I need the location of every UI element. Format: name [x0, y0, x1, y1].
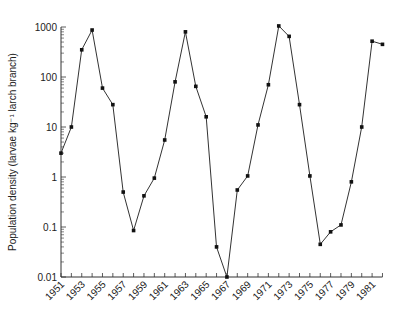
x-tick-label: 1957	[105, 278, 129, 302]
data-point-marker	[267, 83, 271, 87]
data-point-marker	[80, 48, 84, 52]
data-point-marker	[246, 174, 250, 178]
data-point-marker	[256, 123, 260, 127]
data-point-marker	[318, 243, 322, 247]
y-tick-label: 100	[40, 72, 57, 83]
data-point-marker	[329, 230, 333, 234]
data-point-marker	[163, 138, 167, 142]
data-point-marker	[235, 188, 239, 192]
data-point-marker	[204, 115, 208, 119]
x-axis: 1951195319551957195919611963196519671969…	[43, 273, 383, 302]
x-tick-label: 1977	[313, 278, 337, 302]
series-line	[61, 26, 383, 277]
data-point-marker	[381, 43, 385, 47]
data-point-marker	[184, 30, 188, 34]
y-tick-label: 1	[51, 172, 57, 183]
data-point-marker	[225, 275, 229, 279]
data-point-marker	[298, 103, 302, 107]
data-point-marker	[370, 39, 374, 43]
data-point-marker	[90, 28, 94, 32]
data-point-marker	[339, 223, 343, 227]
x-tick-label: 1967	[209, 278, 233, 302]
data-point-marker	[173, 80, 177, 84]
x-tick-label: 1965	[188, 278, 212, 302]
plot-area	[59, 24, 384, 279]
x-tick-label: 1979	[333, 278, 357, 302]
x-tick-label: 1963	[167, 278, 191, 302]
x-tick-label: 1975	[292, 278, 316, 302]
x-tick-label: 1981	[354, 278, 378, 302]
data-point-marker	[308, 174, 312, 178]
data-point-marker	[121, 190, 125, 194]
data-point-marker	[142, 194, 146, 198]
x-tick-label: 1971	[250, 278, 274, 302]
y-tick-label: 0.01	[38, 272, 58, 283]
data-point-marker	[350, 180, 354, 184]
data-point-marker	[59, 151, 63, 155]
data-point-marker	[277, 24, 281, 28]
y-tick-label: 10	[46, 122, 58, 133]
data-point-marker	[111, 103, 115, 107]
y-tick-label: 0.1	[43, 222, 57, 233]
data-point-marker	[194, 85, 198, 89]
x-tick-label: 1961	[147, 278, 171, 302]
data-point-marker	[287, 35, 291, 39]
data-point-marker	[360, 125, 364, 129]
x-tick-label: 1955	[84, 278, 108, 302]
x-tick-label: 1969	[230, 278, 254, 302]
data-point-marker	[101, 86, 105, 90]
y-axis-title: Population density (larvae kg⁻¹ larch br…	[7, 53, 18, 251]
x-tick-label: 1959	[126, 278, 150, 302]
x-tick-label: 1953	[64, 278, 88, 302]
population-density-chart: 0.010.11101001000 1951195319551957195919…	[0, 0, 405, 317]
data-point-marker	[215, 245, 219, 249]
data-point-marker	[153, 176, 157, 180]
y-tick-label: 1000	[35, 22, 58, 33]
x-tick-label: 1973	[271, 278, 295, 302]
data-point-marker	[70, 125, 74, 129]
data-point-marker	[132, 229, 136, 233]
